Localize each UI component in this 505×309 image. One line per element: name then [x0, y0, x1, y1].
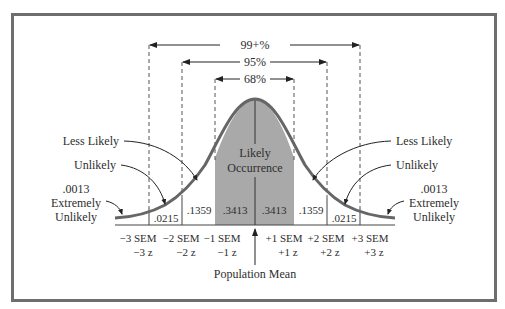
axis-z-neg1: −1 z	[217, 246, 236, 258]
left-less-likely-label: Less Likely	[63, 134, 119, 148]
left-extreme-value: .0013	[63, 182, 90, 196]
right-unlikely-label: Unlikely	[396, 158, 438, 172]
center-label-line1: Likely	[239, 146, 270, 160]
area-right-tail: .0215	[332, 212, 357, 224]
axis-sem-neg3: −3 SEM	[119, 232, 156, 244]
range-68-arrow: 68%	[216, 72, 293, 86]
axis-z-neg2: −2 z	[176, 246, 195, 258]
right-extreme-line1: Extremely	[409, 196, 459, 210]
range-68-label: 68%	[244, 72, 266, 86]
area-left-band2: .1359	[187, 204, 212, 216]
range-95-arrow: 95%	[183, 55, 326, 69]
axis-z-pos1: +1 z	[278, 246, 297, 258]
axis-sem-pos1: +1 SEM	[265, 232, 302, 244]
axis-z-pos2: +2 z	[320, 246, 339, 258]
axis-labels: −3 SEM −3 z −2 SEM −2 z −1 SEM −1 z +1 S…	[119, 232, 388, 258]
axis-sem-neg2: −2 SEM	[162, 232, 199, 244]
axis-z-pos3: +3 z	[364, 246, 383, 258]
axis-sem-pos3: +3 SEM	[351, 232, 388, 244]
left-extreme-line2: Unlikely	[55, 210, 97, 224]
range-99-arrow: 99+%	[150, 38, 359, 52]
axis-sem-pos2: +2 SEM	[307, 232, 344, 244]
range-95-label: 95%	[244, 55, 266, 69]
area-left-tail: .0215	[154, 212, 179, 224]
center-label-line2: Occurrence	[227, 161, 282, 175]
right-extreme-value: .0013	[421, 182, 448, 196]
right-annotations: Less Likely Unlikely .0013 Extremely Unl…	[313, 134, 459, 224]
axis-z-neg3: −3 z	[133, 246, 152, 258]
population-mean-label: Population Mean	[214, 267, 296, 281]
area-right-band1: .3413	[262, 204, 287, 216]
normal-curve-diagram: 99+% 95% 68% Likely Occurrence .0215 .13…	[0, 0, 505, 309]
axis-sem-neg1: −1 SEM	[203, 232, 240, 244]
left-extreme-line1: Extremely	[51, 196, 101, 210]
area-right-band2: .1359	[299, 204, 324, 216]
area-left-band1: .3413	[223, 204, 248, 216]
left-annotations: Less Likely Unlikely .0013 Extremely Unl…	[51, 134, 197, 224]
right-extreme-line2: Unlikely	[413, 210, 455, 224]
range-99-label: 99+%	[241, 38, 270, 52]
left-unlikely-label: Unlikely	[74, 158, 116, 172]
right-less-likely-label: Less Likely	[396, 134, 452, 148]
